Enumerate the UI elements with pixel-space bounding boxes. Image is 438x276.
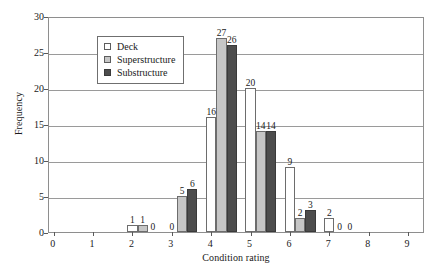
y-tick-label: 25 — [24, 48, 44, 58]
legend-item-superstructure: Superstructure — [104, 53, 175, 66]
legend-swatch-icon-deck — [104, 43, 111, 50]
x-axis-title: Condition rating — [48, 252, 424, 263]
chart-legend: Deck Superstructure Substructure — [97, 36, 184, 84]
legend-label-deck: Deck — [117, 42, 138, 52]
legend-swatch-icon-superstructure — [104, 56, 111, 63]
x-tick-label: 6 — [277, 238, 301, 249]
y-tick-label: 0 — [24, 228, 44, 238]
x-tick-label: 8 — [356, 238, 380, 249]
x-tick-label: 9 — [395, 238, 419, 249]
y-axis-tick-labels: 051015202530 — [22, 0, 44, 276]
x-tick-label: 3 — [159, 238, 183, 249]
x-tick-label: 0 — [41, 238, 65, 249]
y-tick-label: 5 — [24, 192, 44, 202]
x-tick-label: 4 — [198, 238, 222, 249]
legend-label-superstructure: Superstructure — [117, 55, 175, 65]
y-tick-label: 15 — [24, 120, 44, 130]
legend-item-substructure: Substructure — [104, 66, 175, 79]
y-tick-label: 20 — [24, 84, 44, 94]
chart-figure: Frequency 051015202530 11005616272620141… — [0, 0, 438, 276]
y-tick-label: 10 — [24, 156, 44, 166]
legend-swatch-icon-substructure — [104, 69, 111, 76]
x-tick-label: 5 — [238, 238, 262, 249]
x-tick-label: 7 — [316, 238, 340, 249]
legend-label-substructure: Substructure — [117, 68, 168, 78]
x-tick-label: 2 — [119, 238, 143, 249]
legend-item-deck: Deck — [104, 40, 175, 53]
y-tick-label: 30 — [24, 12, 44, 22]
x-tick-label: 1 — [80, 238, 104, 249]
